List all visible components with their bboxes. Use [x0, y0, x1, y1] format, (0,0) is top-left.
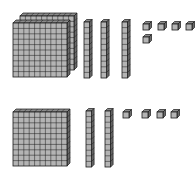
tens-rod [84, 20, 92, 79]
base-ten-blocks-diagram [0, 0, 196, 174]
tens-rod [122, 20, 130, 79]
ones-cube [143, 35, 152, 44]
tens-rod [86, 109, 94, 168]
ones-cube [142, 110, 151, 119]
ones-cube [143, 22, 152, 31]
hundreds-flat [13, 109, 70, 166]
ones-cube [186, 22, 195, 31]
tens-rod [105, 109, 113, 168]
ones-cube [123, 110, 132, 119]
hundreds-flat [13, 20, 70, 77]
ones-cube [158, 22, 167, 31]
ones-cube [171, 110, 180, 119]
tens-rod [101, 20, 109, 79]
ones-cube [157, 110, 166, 119]
ones-cube [172, 22, 181, 31]
